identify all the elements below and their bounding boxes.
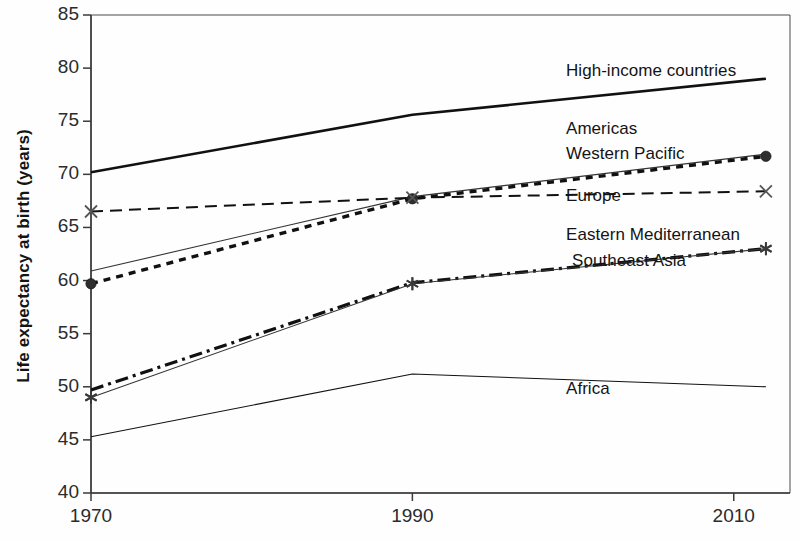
- series-line-africa: [91, 374, 766, 437]
- y-tick-label: 55: [35, 322, 79, 344]
- series-label-europe: Europe: [566, 186, 621, 206]
- y-tick-label: 65: [35, 215, 79, 237]
- y-tick-label: 85: [35, 3, 79, 25]
- data-markers-group: [85, 151, 772, 404]
- y-tick-label: 45: [35, 428, 79, 450]
- marker-asterisk: [85, 391, 96, 404]
- x-tick-label: 1970: [56, 505, 126, 527]
- y-tick-label: 70: [35, 162, 79, 184]
- y-tick-label: 60: [35, 269, 79, 291]
- series-label-eastern-mediterranean: Eastern Mediterranean: [566, 225, 740, 245]
- x-tick-label: 2010: [699, 505, 769, 527]
- series-label-southeast-asia: Southeast Asia: [572, 251, 686, 271]
- y-tick-label: 80: [35, 56, 79, 78]
- marker-circle: [761, 151, 771, 161]
- marker-circle: [86, 279, 96, 289]
- series-label-americas: Americas: [566, 119, 637, 139]
- y-tick-label: 50: [35, 375, 79, 397]
- chart-figure: Life expectancy at birth (years) 4045505…: [0, 0, 799, 540]
- x-tick-label: 1990: [377, 505, 447, 527]
- series-label-africa: Africa: [566, 379, 610, 399]
- y-tick-label: 75: [35, 109, 79, 131]
- series-label-western-pacific: Western Pacific: [566, 144, 685, 164]
- series-label-high-income-countries: High-income countries: [566, 61, 736, 81]
- y-tick-label: 40: [35, 481, 79, 503]
